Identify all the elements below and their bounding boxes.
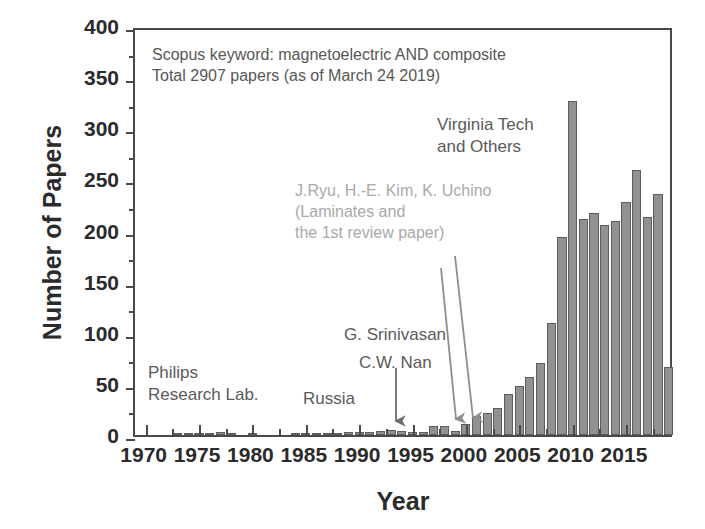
bar: [600, 225, 609, 435]
y-tick-label: 250: [59, 168, 119, 192]
y-tick-label: 150: [59, 271, 119, 295]
annotation-virginia-tech: Virginia Tech and Others: [437, 114, 534, 159]
x-tick-major: [573, 425, 575, 435]
bar: [664, 367, 673, 436]
vt-line-1: Virginia Tech: [437, 115, 534, 134]
y-tick-minor: [129, 209, 135, 211]
vt-line-2: and Others: [437, 137, 521, 156]
y-tick-major: [126, 439, 135, 441]
y-tick-major: [126, 388, 135, 390]
x-tick-minor: [279, 429, 281, 435]
x-tick-major: [199, 425, 201, 435]
y-tick-label: 50: [59, 373, 119, 397]
y-tick-minor: [129, 107, 135, 109]
bar: [397, 431, 406, 435]
bar: [205, 433, 214, 435]
bar: [504, 394, 513, 435]
x-tick-minor: [653, 429, 655, 435]
annotation-russia: Russia: [303, 388, 355, 410]
bar: [653, 194, 662, 435]
x-tick-minor: [546, 429, 548, 435]
bar: [493, 408, 502, 435]
x-tick-label: 2015: [584, 443, 664, 467]
bar: [365, 432, 374, 435]
ryu-line-3: the 1st review paper): [295, 224, 444, 241]
x-tick-major: [306, 425, 308, 435]
x-tick-major: [466, 425, 468, 435]
bar: [387, 430, 396, 435]
ryu-line-2: (Laminates and: [295, 203, 405, 220]
x-axis-title: Year: [133, 487, 673, 516]
x-tick-major: [252, 425, 254, 435]
chart-figure: Number of Papers Year 050100150200250300…: [0, 0, 705, 529]
bar: [429, 426, 438, 435]
bar: [173, 433, 182, 435]
y-tick-major: [126, 337, 135, 339]
bar: [621, 202, 630, 435]
x-tick-minor: [493, 429, 495, 435]
bar: [589, 213, 598, 435]
bar: [323, 433, 332, 435]
bar: [472, 416, 481, 435]
annotation-scopus-note: Scopus keyword: magnetoelectric AND comp…: [152, 44, 506, 86]
x-tick-major: [359, 425, 361, 435]
x-tick-minor: [172, 429, 174, 435]
x-tick-major: [626, 425, 628, 435]
bar: [525, 377, 534, 435]
y-tick-label: 200: [59, 220, 119, 244]
bar: [376, 431, 385, 435]
bar: [451, 431, 460, 435]
x-tick-major: [146, 425, 148, 435]
y-tick-minor: [129, 56, 135, 58]
bar: [632, 170, 641, 435]
y-tick-major: [126, 81, 135, 83]
y-tick-major: [126, 30, 135, 32]
y-tick-minor: [129, 362, 135, 364]
bar: [557, 237, 566, 435]
y-tick-major: [126, 183, 135, 185]
bar: [440, 426, 449, 435]
bar: [344, 432, 353, 435]
y-tick-major: [126, 235, 135, 237]
bar: [547, 323, 556, 435]
annotation-philips: Philips Research Lab.: [148, 362, 259, 407]
bar: [419, 432, 428, 435]
y-tick-minor: [129, 260, 135, 262]
y-tick-label: 300: [59, 117, 119, 141]
bar: [216, 432, 225, 435]
y-tick-minor: [129, 413, 135, 415]
y-tick-minor: [129, 311, 135, 313]
scopus-line-2: Total 2907 papers (as of March 24 2019): [152, 67, 440, 84]
bar: [579, 219, 588, 435]
philips-line-2: Research Lab.: [148, 385, 259, 404]
bar: [226, 433, 235, 435]
philips-line-1: Philips: [148, 363, 198, 382]
x-tick-minor: [439, 429, 441, 435]
y-tick-label: 100: [59, 322, 119, 346]
x-tick-minor: [599, 429, 601, 435]
bar: [333, 433, 342, 435]
bar: [536, 363, 545, 435]
bar: [291, 433, 300, 435]
y-tick-label: 400: [59, 15, 119, 39]
x-tick-minor: [386, 429, 388, 435]
x-tick-major: [519, 425, 521, 435]
y-tick-minor: [129, 158, 135, 160]
annotation-srinivasan: G. Srinivasan: [344, 324, 446, 346]
y-tick-label: 350: [59, 66, 119, 90]
bar: [568, 101, 577, 435]
annotation-cw-nan: C.W. Nan: [359, 352, 432, 374]
bar: [312, 433, 321, 435]
bar: [184, 433, 193, 435]
bar: [643, 217, 652, 435]
y-tick-major: [126, 132, 135, 134]
y-tick-major: [126, 286, 135, 288]
bar: [611, 221, 620, 435]
bar: [483, 413, 492, 435]
x-tick-major: [413, 425, 415, 435]
annotation-ryu-kim-uchino: J.Ryu, H.-E. Kim, K. Uchino (Laminates a…: [295, 180, 492, 243]
x-tick-minor: [332, 429, 334, 435]
ryu-line-1: J.Ryu, H.-E. Kim, K. Uchino: [295, 182, 492, 199]
x-tick-minor: [226, 429, 228, 435]
scopus-line-1: Scopus keyword: magnetoelectric AND comp…: [152, 46, 506, 63]
